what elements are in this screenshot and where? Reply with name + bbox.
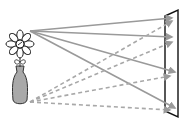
solid-ray-4 (30, 31, 175, 108)
solid-ray-1 (30, 18, 172, 31)
flower-head (6, 30, 34, 58)
screen-panel (165, 10, 178, 117)
leaf-right (20, 60, 25, 64)
dashed-ray-4 (30, 102, 170, 110)
dashed-ray-1 (30, 21, 172, 102)
vase (12, 66, 27, 104)
dashed-ray-3 (30, 76, 170, 102)
flower-in-vase (6, 30, 34, 104)
screen (165, 10, 178, 117)
solid-ray-3 (30, 31, 175, 72)
light-ray-diagram: Light rays from an object (flower in vas… (0, 0, 194, 128)
leaf-left (15, 60, 20, 64)
solid-ray-2 (30, 31, 172, 37)
